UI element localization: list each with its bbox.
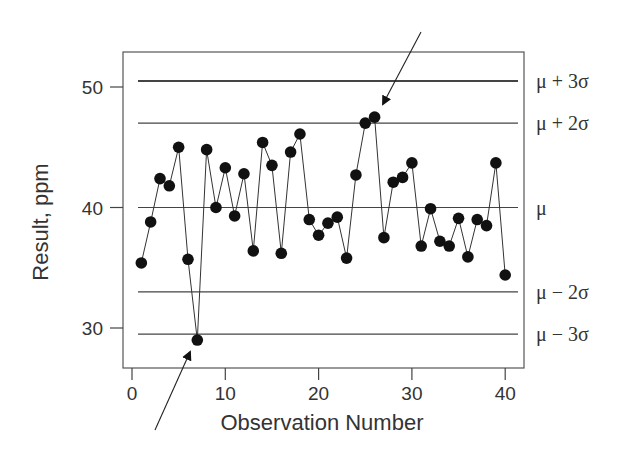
y-tick-label: 40 [82, 198, 103, 219]
data-point [462, 251, 474, 263]
limit-label: μ − 3σ [536, 323, 589, 346]
x-axis-label: Observation Number [221, 410, 424, 435]
data-point [136, 257, 148, 269]
data-point [406, 157, 418, 169]
data-point [453, 213, 465, 225]
x-tick-label: 30 [401, 383, 422, 404]
data-point [285, 146, 297, 158]
data-point [210, 202, 222, 214]
data-point [182, 254, 194, 266]
limit-labels: μ + 3σμ + 2σμμ − 2σμ − 3σ [536, 70, 589, 346]
data-point [294, 128, 306, 140]
data-point [499, 269, 511, 281]
x-tick-label: 40 [495, 383, 516, 404]
data-point [238, 168, 250, 180]
control-lines [138, 81, 518, 334]
x-axis: 010203040 [127, 368, 516, 404]
data-point [145, 216, 157, 228]
limit-label: μ [536, 197, 547, 220]
data-point [229, 210, 241, 222]
data-point [341, 252, 353, 264]
limit-label: μ + 2σ [536, 112, 589, 135]
series-line [141, 117, 505, 340]
limit-label: μ + 3σ [536, 70, 589, 93]
data-point [220, 162, 232, 174]
data-point [350, 169, 362, 181]
data-point [331, 211, 343, 223]
data-point [192, 334, 204, 346]
plot-frame [123, 52, 524, 368]
data-point [303, 214, 315, 226]
data-point [154, 173, 166, 185]
x-tick-label: 10 [215, 383, 236, 404]
data-point [369, 111, 381, 123]
y-tick-label: 50 [82, 77, 103, 98]
data-point [313, 229, 325, 241]
data-point [490, 157, 502, 169]
data-point [443, 240, 455, 252]
control-chart: 304050 010203040 μ + 3σμ + 2σμμ − 2σμ − … [0, 0, 632, 450]
data-point [378, 232, 390, 244]
data-point [201, 144, 213, 156]
limit-label: μ − 2σ [536, 281, 589, 304]
data-point [164, 180, 176, 192]
x-tick-label: 20 [308, 383, 329, 404]
arrow-icon [155, 352, 190, 430]
data-point [415, 240, 427, 252]
data-point [481, 220, 493, 232]
data-point [257, 137, 269, 149]
annotations [155, 32, 421, 430]
data-point [247, 245, 259, 257]
y-tick-label: 30 [82, 318, 103, 339]
data-point [425, 203, 437, 215]
x-tick-label: 0 [127, 383, 138, 404]
y-axis-label: Result, ppm [28, 163, 53, 280]
data-point [173, 141, 185, 153]
data-point [397, 172, 409, 184]
arrow-icon [383, 32, 421, 104]
data-point [275, 247, 287, 259]
data-point [266, 160, 278, 172]
y-axis: 304050 [82, 77, 123, 339]
